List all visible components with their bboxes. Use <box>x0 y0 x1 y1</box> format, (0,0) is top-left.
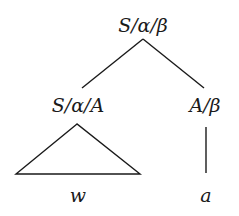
root-node-label: S/α/β <box>118 14 168 36</box>
left-yield-label: w <box>70 184 86 206</box>
edge-root-to-right <box>143 39 204 88</box>
right-leaf-label: a <box>200 184 211 206</box>
right-child-label: A/β <box>187 94 220 116</box>
left-child-label: S/α/A <box>52 94 104 116</box>
edge-root-to-left <box>82 39 143 88</box>
parse-tree-diagram: S/α/β S/α/A A/β w a <box>0 0 239 216</box>
subtree-triangle <box>16 124 140 174</box>
